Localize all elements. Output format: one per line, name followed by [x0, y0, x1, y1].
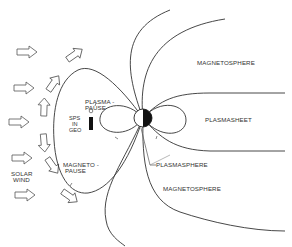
- arrow-icon: [37, 134, 51, 153]
- arrow-icon: [17, 46, 37, 58]
- label-solar-wind-line2: WIND: [13, 176, 30, 183]
- field-line-mid-bottom: [143, 118, 285, 231]
- arrow-icon: [59, 186, 81, 206]
- label-plasmasphere: PLASMASPHERE: [156, 161, 208, 168]
- label-plasmasheet: PLASMASHEET: [205, 116, 252, 123]
- label-magnetopause-line2: PAUSE: [65, 167, 86, 174]
- arrow-icon: [9, 116, 29, 128]
- earth: [134, 109, 152, 127]
- field-line-mid-top: [142, 19, 225, 118]
- arrow-icon: [42, 155, 62, 177]
- magnetosphere-diagram: MAGNETOSPHERE PLASMASHEET PLASMA - PAUSE…: [0, 0, 292, 247]
- field-line-outer-bottom: [105, 118, 143, 246]
- label-geo: GEO: [69, 127, 82, 133]
- magnetopause-boundary: [54, 68, 143, 193]
- sps-satellite-icon: [89, 109, 93, 130]
- arrow-icon: [64, 44, 86, 64]
- label-magnetosphere-top: MAGNETOSPHERE: [197, 59, 255, 66]
- arrow-icon: [38, 98, 51, 116]
- arrow-icon: [12, 152, 32, 164]
- arrow-icon: [14, 82, 34, 94]
- arrow-icon: [15, 189, 35, 201]
- label-magnetosphere-bottom: MAGNETOSPHERE: [163, 185, 221, 192]
- label-plasmapause-line2: PAUSE: [85, 104, 106, 111]
